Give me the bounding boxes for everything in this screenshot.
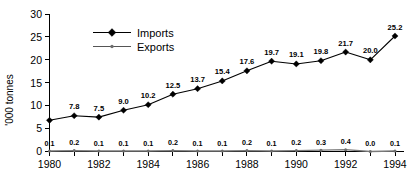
legend-item-exports: Exports xyxy=(93,41,175,53)
data-label-exports: 0.1 xyxy=(94,139,104,148)
data-point-imports xyxy=(120,107,126,113)
data-label-exports: 0.1 xyxy=(267,139,277,148)
line-chart: '000 tonnes 0.10.20.10.10.10.20.10.10.20… xyxy=(0,0,414,180)
x-axis-tick-label: 1980 xyxy=(38,158,62,170)
data-label-imports: 10.2 xyxy=(141,91,156,100)
data-point-imports xyxy=(244,68,250,74)
legend-marker-exports-dot-icon xyxy=(110,45,113,48)
x-axis-tick-label: 1982 xyxy=(87,158,111,170)
data-label-exports: 0.1 xyxy=(143,139,153,148)
legend-label-imports: Imports xyxy=(137,27,174,39)
data-point-exports xyxy=(73,149,76,152)
data-point-exports xyxy=(196,150,199,153)
y-axis-tick-label: 0 xyxy=(36,145,42,157)
data-label-exports: 0.2 xyxy=(69,138,79,147)
y-axis-tick-label: 25 xyxy=(30,31,42,43)
data-label-exports: 0.1 xyxy=(45,139,55,148)
data-label-exports: 0.2 xyxy=(291,138,301,147)
data-label-imports: 19.8 xyxy=(314,47,329,56)
data-label-imports: 20.0 xyxy=(363,46,378,55)
data-point-exports xyxy=(344,148,347,151)
data-point-exports xyxy=(122,150,125,153)
data-point-exports xyxy=(171,149,174,152)
data-label-exports: 0.2 xyxy=(168,138,178,147)
data-point-exports xyxy=(295,149,298,152)
x-axis-tick-label: 1984 xyxy=(137,158,161,170)
data-label-exports: 0.1 xyxy=(217,139,227,148)
data-label-exports: 0.1 xyxy=(193,139,203,148)
x-axis-tick-label: 1992 xyxy=(334,158,358,170)
data-label-imports: 7.8 xyxy=(69,102,80,111)
data-point-exports xyxy=(319,149,322,152)
data-point-exports xyxy=(97,150,100,153)
legend-label-exports: Exports xyxy=(137,41,175,53)
data-point-imports xyxy=(71,113,77,119)
data-label-exports: 0.1 xyxy=(119,139,129,148)
data-label-imports: 7.5 xyxy=(94,104,105,113)
data-point-imports xyxy=(194,86,200,92)
data-point-imports xyxy=(293,61,299,67)
x-axis-tick-label: 1988 xyxy=(235,158,259,170)
series-markers-exports xyxy=(48,148,397,153)
y-axis-title: '000 tonnes xyxy=(4,74,15,125)
data-label-imports: 17.6 xyxy=(240,57,255,66)
data-label-exports: 0.0 xyxy=(365,139,375,148)
data-label-imports: 12.5 xyxy=(166,81,182,90)
data-label-imports: 15.4 xyxy=(215,67,231,76)
data-point-exports xyxy=(394,150,397,153)
data-label-exports: 0.4 xyxy=(341,137,351,146)
chart-canvas: '000 tonnes 0.10.20.10.10.10.20.10.10.20… xyxy=(0,0,414,180)
legend-marker-imports-diamond-icon xyxy=(108,29,116,37)
x-axis-tick-labels: 19801982198419861988199019921994 xyxy=(38,158,407,170)
data-point-imports xyxy=(170,91,176,97)
data-point-imports xyxy=(269,58,275,64)
y-axis-tick-label: 20 xyxy=(30,54,42,66)
data-point-imports xyxy=(343,49,349,55)
data-point-imports xyxy=(46,117,52,123)
data-point-exports xyxy=(369,150,372,153)
legend-item-imports: Imports xyxy=(93,27,174,39)
data-label-exports: 0.2 xyxy=(242,138,252,147)
y-axis-tick-label: 30 xyxy=(30,8,42,20)
data-label-imports: 19.7 xyxy=(264,48,279,57)
series-datalabels-exports: 0.10.20.10.10.10.20.10.10.20.10.20.30.40… xyxy=(45,137,401,148)
y-axis-tick-labels: 051015202530 xyxy=(30,8,42,158)
data-point-imports xyxy=(96,114,102,120)
x-axis-tick-label: 1990 xyxy=(285,158,309,170)
y-axis-ticks xyxy=(45,14,50,152)
x-axis-tick-label: 1994 xyxy=(383,158,407,170)
legend: Imports Exports xyxy=(93,27,175,53)
data-label-imports: 19.1 xyxy=(289,50,305,59)
data-label-exports: 0.1 xyxy=(390,139,400,148)
y-axis-tick-label: 15 xyxy=(30,77,42,89)
data-point-imports xyxy=(318,58,324,64)
data-label-imports: 9.0 xyxy=(118,97,129,106)
data-label-imports: 21.7 xyxy=(338,39,353,48)
data-point-exports xyxy=(221,150,224,153)
data-point-imports xyxy=(145,102,151,108)
data-point-imports xyxy=(219,78,225,84)
data-point-exports xyxy=(270,150,273,153)
y-axis-tick-label: 5 xyxy=(36,122,42,134)
data-point-exports xyxy=(48,150,51,153)
data-label-imports: 25.2 xyxy=(388,23,403,32)
data-label-exports: 0.3 xyxy=(316,138,326,147)
series-datalabels-imports: 7.87.59.010.212.513.715.417.619.719.119.… xyxy=(69,23,402,113)
y-axis-title-group: '000 tonnes xyxy=(4,74,15,125)
data-label-imports: 13.7 xyxy=(190,75,205,84)
x-axis-tick-label: 1986 xyxy=(186,158,210,170)
y-axis-tick-label: 10 xyxy=(30,99,42,111)
data-point-exports xyxy=(147,150,150,153)
data-point-exports xyxy=(245,149,248,152)
